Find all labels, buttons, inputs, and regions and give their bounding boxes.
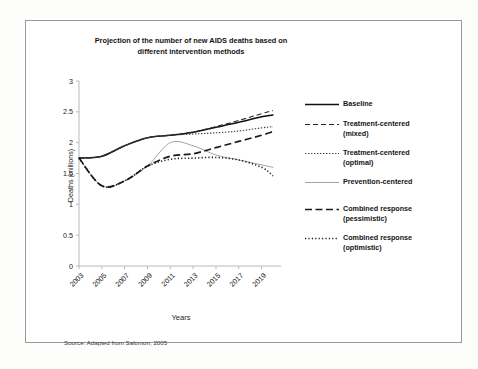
legend-label-line-1: Treatment-centered	[343, 119, 410, 129]
legend-label: Treatment-centered(mixed)	[340, 119, 410, 139]
legend-item-prevention-centered[interactable]: Prevention-centered	[304, 177, 464, 188]
x-axis-tick-label: 2009	[136, 271, 154, 289]
legend-swatch-line	[304, 177, 340, 188]
x-axis-tick-label: 2005	[91, 271, 109, 289]
y-axis-tick-label: 2.5	[63, 107, 73, 116]
x-axis-tick-label: 2013	[182, 271, 200, 289]
x-axis-tick-label: 2019	[250, 271, 268, 289]
x-axis-tick-label: 2003	[68, 271, 86, 289]
y-axis-title: Deaths (millions)	[66, 126, 75, 226]
legend-label: Prevention-centered	[340, 177, 413, 187]
legend-swatch-line	[304, 233, 340, 244]
legend-label-line-2: (mixed)	[343, 129, 410, 139]
x-axis-tick-label: 2017	[228, 271, 246, 289]
legend-item-combined-response-pessimistic[interactable]: Combined response(pessimistic)	[304, 204, 464, 224]
series-line-combined-response-pessimistic	[79, 132, 273, 188]
legend-label: Combined response(pessimistic)	[340, 204, 412, 224]
legend-label-line-1: Combined response	[343, 204, 412, 214]
legend-swatch-line	[304, 99, 340, 110]
legend-item-treatment-centered-optimal[interactable]: Treatment-centered(optimal)	[304, 148, 464, 168]
x-axis-tick-label: 2015	[205, 271, 223, 289]
series-line-prevention-centered	[79, 141, 273, 187]
legend-swatch-line	[304, 119, 340, 130]
y-axis-tick-label: 3	[69, 77, 73, 86]
legend-label-line-2: (optimistic)	[343, 243, 412, 253]
x-axis-title: Years	[121, 313, 241, 322]
legend-swatch-line	[304, 148, 340, 159]
legend-label-line-1: Treatment-centered	[343, 148, 410, 158]
legend-label: Combined response(optimistic)	[340, 233, 412, 253]
legend-swatch-line	[304, 204, 340, 215]
legend-label-line-1: Combined response	[343, 233, 412, 243]
legend-item-treatment-centered-mixed[interactable]: Treatment-centered(mixed)	[304, 119, 464, 139]
x-axis-tick-label: 2007	[113, 271, 131, 289]
chart-legend: BaselineTreatment-centered(mixed)Treatme…	[304, 99, 464, 262]
legend-label: Baseline	[340, 99, 373, 109]
series-line-baseline	[79, 115, 273, 158]
y-axis-tick-label: 0.5	[63, 231, 73, 240]
legend-item-baseline[interactable]: Baseline	[304, 99, 464, 110]
legend-item-combined-response-optimistic[interactable]: Combined response(optimistic)	[304, 233, 464, 253]
figure-frame: Projection of the number of new AIDS dea…	[25, 20, 462, 343]
legend-label-line-2: (optimal)	[343, 158, 410, 168]
legend-label: Treatment-centered(optimal)	[340, 148, 410, 168]
y-axis-tick-label: 0	[69, 262, 73, 271]
x-axis-tick-label: 2011	[159, 271, 176, 288]
series-line-combined-response-optimistic	[79, 157, 273, 187]
source-note: Source: Adapted from Salomon, 2005	[64, 339, 167, 346]
legend-label-line-2: (pessimistic)	[343, 214, 412, 224]
